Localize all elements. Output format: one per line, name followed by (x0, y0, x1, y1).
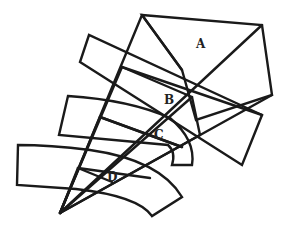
label-d: D (107, 170, 117, 184)
background (0, 0, 288, 228)
label-b: B (164, 93, 174, 107)
label-a: A (195, 37, 206, 51)
label-c: C (154, 128, 164, 142)
conformal-mapping-diagram: A B C D (0, 0, 288, 228)
